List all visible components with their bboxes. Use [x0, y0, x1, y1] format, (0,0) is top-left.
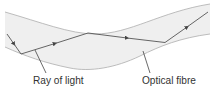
- ray-of-light-label: Ray of light: [33, 74, 84, 86]
- optical-fibre-label: Optical fibre: [142, 74, 196, 86]
- fibre-leader-line: [143, 51, 150, 73]
- fibre-body: [5, 4, 210, 70]
